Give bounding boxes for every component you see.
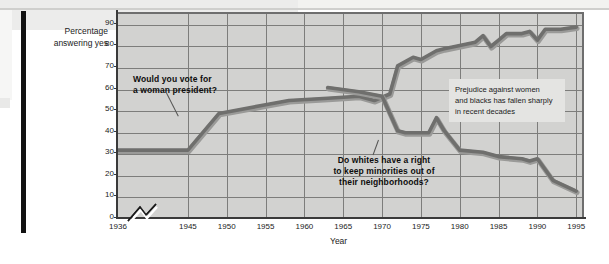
y-axis-tick-label: 20 bbox=[92, 170, 114, 178]
caption-line2: and blacks has fallen sharply bbox=[455, 95, 559, 106]
x-axis-tick-label: 1980 bbox=[440, 222, 480, 231]
x-axis-tick-label: 1965 bbox=[323, 222, 363, 231]
y-axis-title-line1: Percentage bbox=[30, 25, 108, 37]
annotation-whites-line3: their neighborhoods? bbox=[318, 177, 450, 188]
x-axis-tick-label: 1936 bbox=[98, 222, 138, 231]
figure-page: Percentage answering yes 010203040506070… bbox=[0, 0, 609, 264]
y-axis-tick-label: 40 bbox=[92, 127, 114, 135]
caption-line1: Prejudice against women bbox=[455, 84, 559, 95]
x-axis-tick-label: 1985 bbox=[479, 222, 519, 231]
annotation-woman-line1: Would you vote for bbox=[133, 74, 245, 85]
y-axis-tick-label: 50 bbox=[92, 105, 114, 113]
y-axis-tick-label: 70 bbox=[92, 62, 114, 70]
y-axis-tick-label: 30 bbox=[92, 148, 114, 156]
page-gutter-bar bbox=[21, 11, 26, 233]
x-axis-tick-label: 1950 bbox=[207, 222, 247, 231]
x-axis-tick-label: 1960 bbox=[284, 222, 324, 231]
y-axis-tick-label: 80 bbox=[92, 40, 114, 48]
x-axis-tick-label: 1975 bbox=[401, 222, 441, 231]
x-axis-break-icon bbox=[126, 203, 160, 223]
annotation-whites-line1: Do whites have a right bbox=[318, 155, 450, 166]
x-axis-tick-label: 1990 bbox=[517, 222, 557, 231]
y-axis-tick-mark bbox=[114, 217, 118, 218]
x-axis-line bbox=[116, 217, 586, 219]
y-axis-tick-label: 60 bbox=[92, 84, 114, 92]
annotation-whites-line2: to keep minorities out of bbox=[318, 166, 450, 177]
y-axis-tick-label: 0 bbox=[92, 213, 114, 221]
x-axis-tick-label: 1955 bbox=[246, 222, 286, 231]
x-axis-tick-label: 1970 bbox=[362, 222, 402, 231]
y-axis-tick-label: 10 bbox=[92, 191, 114, 199]
caption-line3: in recent decades bbox=[455, 106, 559, 117]
x-axis-tick-label: 1945 bbox=[168, 222, 208, 231]
page-scan-rule bbox=[0, 8, 609, 10]
x-axis-tick-label: 1995 bbox=[556, 222, 596, 231]
annotation-whites-neighborhoods: Do whites have a right to keep minoritie… bbox=[318, 155, 450, 188]
figure-caption-box: Prejudice against women and blacks has f… bbox=[449, 79, 565, 122]
annotation-woman-president: Would you vote for a woman president? bbox=[133, 74, 245, 96]
page-scan-spine bbox=[0, 10, 12, 100]
annotation-woman-line2: a woman president? bbox=[133, 85, 245, 96]
page-scan-spine-lower bbox=[0, 98, 10, 108]
x-axis-title: Year bbox=[330, 236, 390, 246]
y-axis-tick-label: 90 bbox=[92, 19, 114, 27]
